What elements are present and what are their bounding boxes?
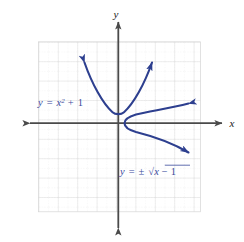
label-right-eq: = <box>129 166 135 177</box>
label-right-radicand-var: x <box>153 166 159 177</box>
label-right-lhs: y <box>119 166 125 177</box>
label-up-eq: = <box>47 97 53 108</box>
y-axis-label: y <box>113 8 119 20</box>
grid <box>38 42 200 212</box>
x-axis-label: x <box>229 117 235 129</box>
grid-major <box>38 42 200 212</box>
label-right-minus: − <box>162 166 168 177</box>
label-up-plus: + <box>68 97 74 108</box>
graph-figure: y x y=x2+1 y=±√x−1 <box>0 0 244 242</box>
label-up-lhs: y <box>37 97 43 108</box>
label-up-exponent: 2 <box>61 97 65 105</box>
label-up-constant: 1 <box>78 97 83 108</box>
coordinate-plane-svg: y x y=x2+1 y=±√x−1 <box>0 0 244 242</box>
label-right-radicand-const: 1 <box>171 166 176 177</box>
label-right-pm: ± <box>139 166 145 177</box>
